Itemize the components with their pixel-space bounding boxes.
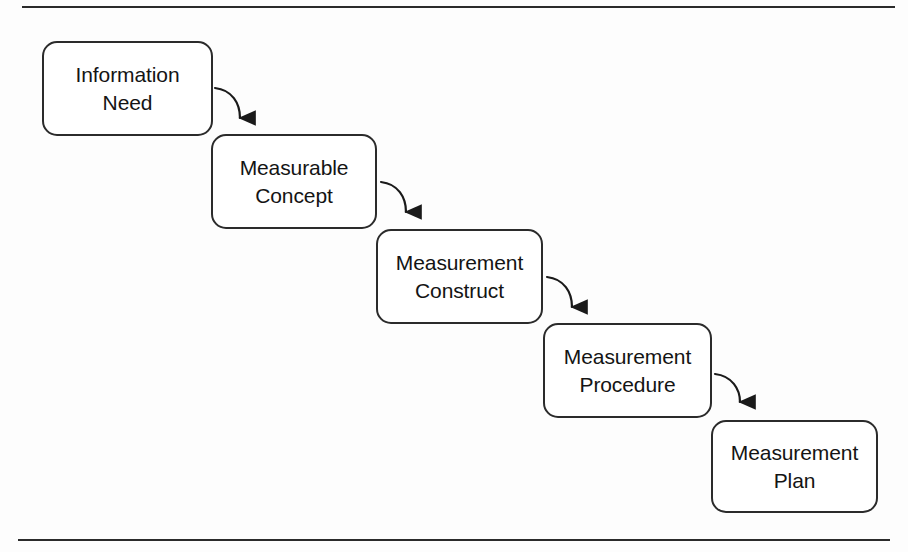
arrow-2-path <box>381 182 406 212</box>
node-information-need-label: Information Need <box>70 61 186 117</box>
node-measurement-procedure[interactable]: Measurement Procedure <box>543 323 712 418</box>
arrow-3-path <box>547 277 572 307</box>
node-information-need[interactable]: Information Need <box>42 41 213 136</box>
node-measurement-plan-label: Measurement Plan <box>725 439 864 495</box>
arrow-1-path <box>215 88 240 118</box>
figure-canvas: Information Need Measurable Concept Meas… <box>0 0 908 552</box>
node-measurement-procedure-label: Measurement Procedure <box>558 343 697 399</box>
node-measurement-construct[interactable]: Measurement Construct <box>376 229 543 324</box>
arrow-4-path <box>715 374 740 402</box>
node-measurement-construct-label: Measurement Construct <box>390 249 529 305</box>
node-measurable-concept[interactable]: Measurable Concept <box>211 134 377 229</box>
node-measurable-concept-label: Measurable Concept <box>234 154 355 210</box>
node-measurement-plan[interactable]: Measurement Plan <box>711 420 878 513</box>
